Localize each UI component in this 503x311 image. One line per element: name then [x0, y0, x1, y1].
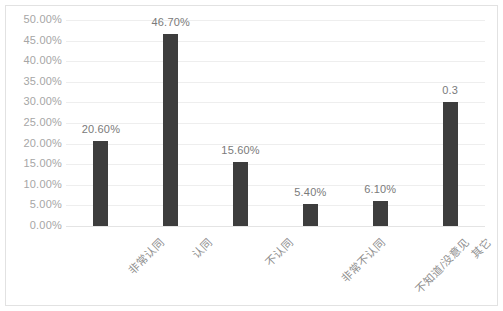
y-tick-label: 5.00%: [6, 199, 62, 210]
gridline: [66, 144, 485, 145]
gridline: [66, 20, 485, 21]
bar[interactable]: [443, 102, 458, 226]
y-tick-label: 30.00%: [6, 96, 62, 107]
bar-value-label: 5.40%: [280, 186, 340, 198]
x-axis-labels: 非常认同认同不认同非常不认同不知道/没意见其它: [66, 226, 485, 306]
chart-figure: 0.00%5.00%10.00%15.00%20.00%25.00%30.00%…: [0, 0, 503, 311]
y-tick-label: 20.00%: [6, 138, 62, 149]
gridline: [66, 41, 485, 42]
gridline: [66, 82, 485, 83]
bar-value-label: 0.3: [420, 84, 480, 96]
gridline: [66, 61, 485, 62]
bar[interactable]: [93, 141, 108, 226]
y-axis-ticks: 0.00%5.00%10.00%15.00%20.00%25.00%30.00%…: [0, 20, 62, 226]
y-tick-label: 15.00%: [6, 158, 62, 169]
y-tick-label: 35.00%: [6, 76, 62, 87]
bar[interactable]: [303, 204, 318, 226]
bar-value-label: 46.70%: [141, 16, 201, 28]
gridline: [66, 164, 485, 165]
plot-area: 20.60%46.70%15.60%5.40%6.10%0.3: [66, 20, 485, 226]
y-tick-label: 0.00%: [6, 220, 62, 231]
x-category-label: 非常认同: [124, 234, 167, 277]
y-tick-label: 45.00%: [6, 35, 62, 46]
bar[interactable]: [373, 201, 388, 226]
bar[interactable]: [163, 34, 178, 226]
x-category-label: 非常不认同: [337, 234, 388, 285]
y-tick-label: 10.00%: [6, 179, 62, 190]
y-tick-label: 25.00%: [6, 117, 62, 128]
x-category-label: 不知道/没意见: [411, 234, 473, 296]
gridline: [66, 205, 485, 206]
bar[interactable]: [233, 162, 248, 226]
gridline: [66, 185, 485, 186]
bar-value-label: 20.60%: [71, 123, 131, 135]
x-category-label: 不认同: [261, 234, 296, 269]
y-tick-label: 50.00%: [6, 14, 62, 25]
bar-value-label: 15.60%: [211, 144, 271, 156]
gridline: [66, 102, 485, 103]
y-tick-label: 40.00%: [6, 55, 62, 66]
x-category-label: 认同: [187, 234, 214, 261]
bar-value-label: 6.10%: [350, 183, 410, 195]
